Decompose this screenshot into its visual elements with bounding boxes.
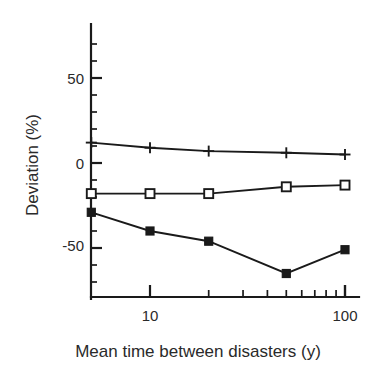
data-point-filled-square: [146, 227, 154, 235]
line-chart: 50 0 -50 10 100 Deviation (%) Mean time …: [0, 0, 386, 370]
y-tick-label-50: 50: [67, 70, 84, 87]
data-point-filled-square: [341, 246, 349, 254]
data-point-open-square: [282, 182, 291, 191]
data-point-open-square: [204, 189, 213, 198]
data-point-open-square: [87, 189, 96, 198]
data-point-open-square: [341, 181, 350, 190]
data-point-filled-square: [205, 237, 213, 245]
data-point-filled-square: [87, 208, 95, 216]
x-axis-title: Mean time between disasters (y): [75, 342, 321, 361]
data-point-filled-square: [282, 270, 290, 278]
x-tick-label-100: 100: [332, 307, 357, 324]
x-tick-label-10: 10: [142, 307, 159, 324]
y-tick-label-minus-50: -50: [62, 237, 84, 254]
y-axis-title: Deviation (%): [23, 114, 42, 216]
data-point-open-square: [146, 189, 155, 198]
y-tick-label-0: 0: [76, 155, 84, 172]
chart-figure: 50 0 -50 10 100 Deviation (%) Mean time …: [0, 0, 386, 370]
